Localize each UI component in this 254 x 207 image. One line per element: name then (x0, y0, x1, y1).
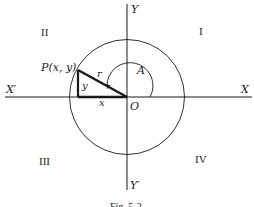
x-axis-label: X (240, 83, 250, 96)
point-p-label: P(x, y) (40, 61, 76, 74)
x-prime-axis-label: X′ (5, 83, 17, 96)
reference-angle-diagram: Y Y′ X X′ O I II III IV P(x, y) r y x A … (0, 0, 254, 207)
y-prime-axis-label: Y′ (130, 179, 140, 192)
y-axis-label: Y (131, 3, 140, 16)
quadrant-iv-label: IV (195, 153, 207, 165)
angle-arc-a (107, 63, 153, 97)
angle-a-label: A (136, 64, 145, 77)
quadrant-i-label: I (199, 25, 203, 37)
quadrant-iii-label: III (39, 155, 50, 167)
hypotenuse-r-label: r (97, 68, 103, 79)
origin-label: O (130, 100, 139, 113)
leg-x-label: x (99, 97, 105, 108)
figure-caption: Fig. 5-2 (110, 201, 142, 207)
quadrant-ii-label: II (41, 26, 49, 38)
leg-y-label: y (81, 80, 88, 91)
